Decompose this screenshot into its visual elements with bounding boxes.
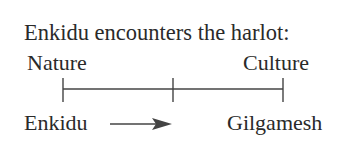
gilgamesh-label: Gilgamesh xyxy=(227,112,322,134)
right-arrow-icon xyxy=(110,118,172,130)
scale-line xyxy=(63,78,283,102)
enkidu-label: Enkidu xyxy=(24,112,88,134)
